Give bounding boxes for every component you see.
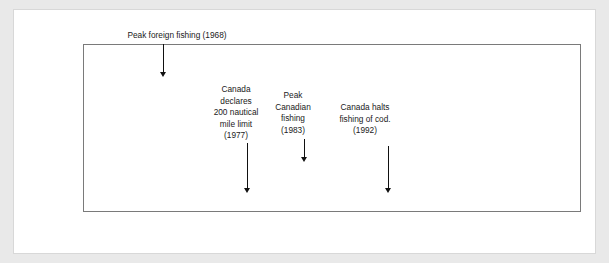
annotation-peak-foreign-fishing: Peak foreign fishing (1968) xyxy=(102,30,252,42)
chart-card: Peak foreign fishing (1968)Canada declar… xyxy=(13,9,596,254)
annotation-arrow-icon xyxy=(160,72,166,77)
annotation-arrow-icon xyxy=(385,188,391,193)
annotation-leader-line xyxy=(304,139,305,157)
annotation-arrow-icon xyxy=(301,157,307,162)
plot-area xyxy=(83,44,581,212)
screenshot-root: Peak foreign fishing (1968)Canada declar… xyxy=(0,0,609,263)
annotation-arrow-icon xyxy=(244,188,250,193)
y-axis-tick-labels xyxy=(28,44,80,212)
annotation-leader-line xyxy=(388,146,389,188)
annotation-leader-line xyxy=(247,143,248,188)
x-axis-tick-labels xyxy=(83,215,581,229)
annotation-leader-line xyxy=(163,44,164,72)
